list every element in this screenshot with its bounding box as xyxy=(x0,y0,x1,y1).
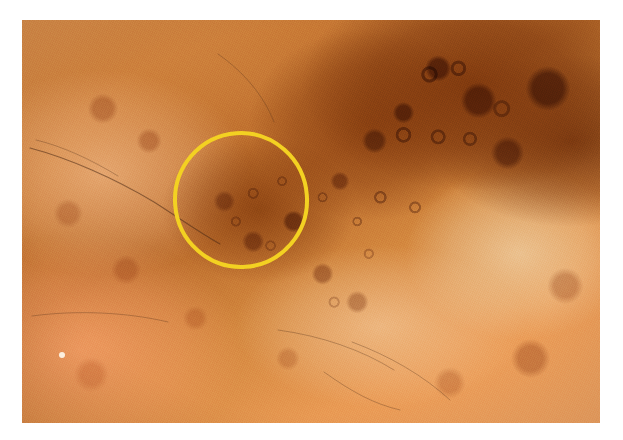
vignette-layer xyxy=(22,20,600,423)
white-speck xyxy=(59,352,65,358)
dermoscopy-photograph xyxy=(22,20,600,423)
dermoscopy-image-viewer xyxy=(0,0,623,440)
